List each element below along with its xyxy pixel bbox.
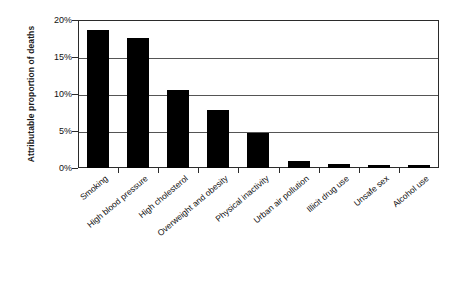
- y-axis-tick-label: 20%: [42, 16, 72, 25]
- bar[interactable]: [167, 90, 189, 168]
- bar-slot: [359, 20, 399, 168]
- bar[interactable]: [368, 165, 390, 168]
- bar[interactable]: [207, 110, 229, 168]
- y-axis-tick-label: 5%: [42, 127, 72, 136]
- y-axis-tick-mark: [72, 168, 78, 169]
- y-axis-title-text: Attributable proportion of deaths: [26, 26, 36, 162]
- bar[interactable]: [408, 165, 430, 168]
- y-axis-tick-label: 0%: [42, 164, 72, 173]
- y-axis-tick-mark: [72, 57, 78, 58]
- x-axis-tick-mark: [319, 168, 320, 173]
- y-axis-tick-label: 10%: [42, 90, 72, 99]
- x-axis-category-label: Overweight and obesity: [156, 174, 230, 238]
- bar-slot: [319, 20, 359, 168]
- bar[interactable]: [247, 133, 269, 168]
- bar-slot: [238, 20, 278, 168]
- bar[interactable]: [288, 161, 310, 168]
- x-axis-tick-mark: [118, 168, 119, 173]
- bar-slot: [198, 20, 238, 168]
- bar[interactable]: [127, 38, 149, 168]
- x-axis-tick-mark: [158, 168, 159, 173]
- x-axis-tick-mark: [198, 168, 199, 173]
- bar-slot: [78, 20, 118, 168]
- x-axis-tick-mark: [238, 168, 239, 173]
- bar-slot: [118, 20, 158, 168]
- x-axis-tick-mark: [359, 168, 360, 173]
- y-axis-tick-mark: [72, 94, 78, 95]
- x-axis-category-label: Smoking: [79, 174, 110, 202]
- x-axis-category-label: Alcohol use: [391, 174, 430, 209]
- x-axis-tick-mark: [279, 168, 280, 173]
- bar-chart-figure: Attributable proportion of deaths 20%15%…: [0, 0, 460, 284]
- y-axis-tick-mark: [72, 20, 78, 21]
- x-axis-category-label: Illicit drug use: [305, 174, 350, 214]
- bar-slot: [399, 20, 439, 168]
- y-axis-tick-label: 15%: [42, 53, 72, 62]
- x-axis-tick-mark: [399, 168, 400, 173]
- y-axis-tick-mark: [72, 131, 78, 132]
- y-axis-tick-labels: 20%15%10%5%0%: [40, 20, 72, 168]
- bar-slot: [158, 20, 198, 168]
- x-axis-category-label: Unsafe sex: [352, 174, 390, 208]
- bar-slot: [279, 20, 319, 168]
- bar[interactable]: [328, 164, 350, 168]
- bar[interactable]: [87, 30, 109, 168]
- bars-layer: [78, 20, 439, 168]
